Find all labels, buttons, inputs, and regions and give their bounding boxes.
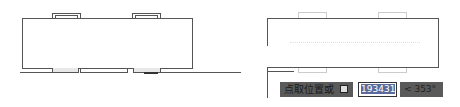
dynamic-input-bar: 点取位置或 193431 < 353° xyxy=(280,82,443,97)
right-block-bottom xyxy=(267,67,439,68)
cursor-bracket-horizontal xyxy=(267,71,294,72)
right-block-right xyxy=(438,18,439,68)
dynamic-input-prompt: 点取位置或 xyxy=(280,82,353,97)
angle-input[interactable]: < 353° xyxy=(400,82,443,97)
left-baseline-b xyxy=(160,72,230,73)
right-ghost-bottom-tab-1 xyxy=(298,68,327,73)
prompt-label: 点取位置或 xyxy=(284,84,334,95)
distance-input[interactable]: 193431 xyxy=(358,82,397,97)
right-ghost-dots xyxy=(290,42,420,43)
right-extension-line xyxy=(230,72,241,73)
left-bottom-tab-2 xyxy=(80,68,128,73)
left-top-tab-2-inner xyxy=(135,15,158,19)
left-block-rectangle xyxy=(22,18,193,69)
cursor-bracket-vertical xyxy=(267,68,268,98)
right-ghost-bottom-tab-2 xyxy=(378,68,407,73)
left-baseline-a xyxy=(20,72,52,73)
right-block-top xyxy=(267,18,438,19)
right-block-left-upper xyxy=(267,18,268,46)
left-baseline-highlight xyxy=(144,72,158,74)
left-bottom-tab-1 xyxy=(52,68,79,73)
right-ghost-top-tab-2 xyxy=(378,12,407,18)
left-top-tab-1-inner xyxy=(55,15,78,19)
right-ghost-top-tab-1 xyxy=(298,12,327,18)
lock-icon[interactable] xyxy=(340,85,348,93)
